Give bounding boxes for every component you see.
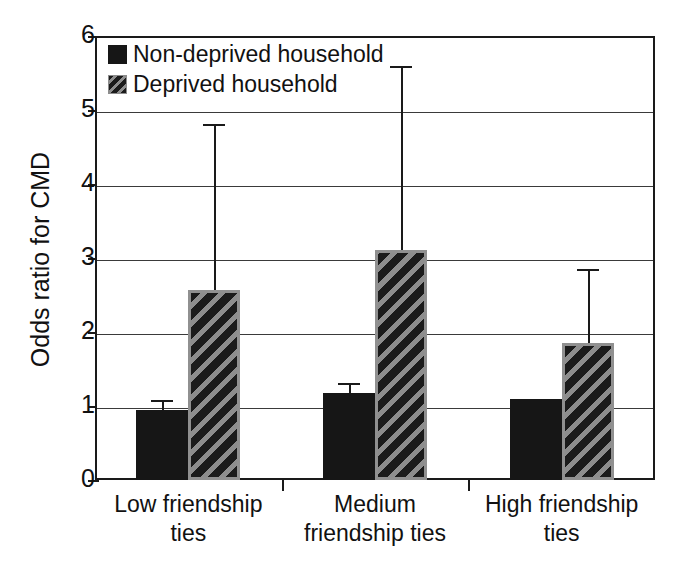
- x-axis-labels: Low friendshiptiesMediumfriendship tiesH…: [95, 490, 655, 560]
- plot-area: [95, 36, 655, 480]
- x-axis-label-3: High friendshipties: [468, 490, 655, 560]
- x-axis-label-3-line-2: ties: [472, 519, 651, 548]
- legend-label-2: Deprived household: [133, 73, 338, 96]
- legend-item-1[interactable]: Non-deprived household: [108, 40, 408, 68]
- legend-item-2[interactable]: Deprived household: [108, 70, 408, 98]
- x-axis-label-1: Low friendshipties: [95, 490, 282, 560]
- y-tick-label-3: 3: [67, 244, 95, 269]
- chart-legend: Non-deprived householdDeprived household: [108, 40, 408, 100]
- legend-swatch-solid-icon: [108, 45, 127, 64]
- x-axis-label-2-line-1: Medium: [286, 490, 465, 519]
- gridline-5: [97, 112, 653, 113]
- legend-label-1: Non-deprived household: [133, 43, 384, 66]
- gridline-2: [97, 334, 653, 335]
- y-tick-label-0: 0: [67, 466, 95, 491]
- x-axis-label-1-line-1: Low friendship: [99, 490, 278, 519]
- gridline-3: [97, 260, 653, 261]
- y-axis-title: Odds ratio for CMD: [26, 80, 55, 440]
- x-axis-label-2: Mediumfriendship ties: [282, 490, 469, 560]
- y-tick-label-4: 4: [67, 170, 95, 195]
- y-tick-label-1: 1: [67, 392, 95, 417]
- y-tick-label-2: 2: [67, 318, 95, 343]
- y-tick-label-6: 6: [67, 22, 95, 47]
- y-axis-ticks: 0123456: [52, 0, 95, 568]
- legend-swatch-hatched-icon: [108, 75, 127, 94]
- x-axis-label-1-line-2: ties: [99, 519, 278, 548]
- gridline-4: [97, 186, 653, 187]
- y-tick-label-5: 5: [67, 96, 95, 121]
- x-axis-label-3-line-1: High friendship: [472, 490, 651, 519]
- x-axis-label-2-line-2: friendship ties: [286, 519, 465, 548]
- gridline-1: [97, 408, 653, 409]
- bar-chart-figure: Odds ratio for CMD 0123456 Low friendshi…: [0, 0, 690, 568]
